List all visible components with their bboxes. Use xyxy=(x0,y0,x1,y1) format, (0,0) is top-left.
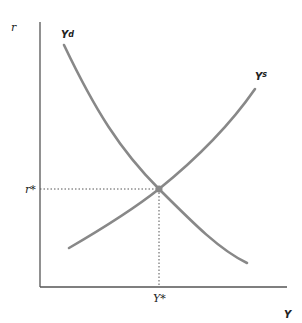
yd-label: Yd xyxy=(61,29,74,40)
equilibrium-point xyxy=(156,186,163,193)
ys-label: Ys xyxy=(255,70,267,82)
diagram-canvas: r Y Yd Ys r* Y* xyxy=(0,0,302,323)
yd-curve xyxy=(64,45,247,263)
ys-curve xyxy=(69,89,255,248)
r-star-label: r* xyxy=(25,183,36,196)
y-star-label: Y* xyxy=(153,292,166,305)
y-axis-label: r xyxy=(11,21,17,34)
x-axis-label: Y xyxy=(284,309,293,320)
